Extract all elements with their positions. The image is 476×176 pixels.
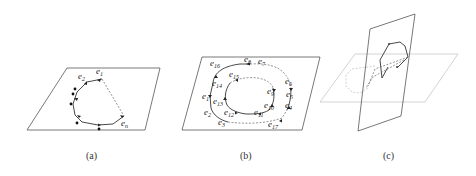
label-e13: e13 [213,96,223,107]
label-e10: e10 [264,100,274,111]
plane-a [27,68,160,130]
label-e4: e4 [285,100,292,111]
intersection-dash-c2 [366,60,404,88]
point [72,93,75,96]
label-e2: e2 [78,71,85,82]
label-e3: e3 [218,117,225,128]
label-e1: e1 [202,91,209,102]
arrow-e13 [223,97,227,100]
label-e12: e12 [224,107,234,118]
label-e5: e5 [286,89,293,100]
label-en: en [121,118,128,129]
point [74,88,77,91]
point [396,66,398,68]
panel-c: (c) [320,14,458,162]
panel-b: e16 e8 e7 e15 e14 e6 e9 e5 e1 e13 e10 e4… [182,54,320,162]
label-e6: e6 [285,76,292,87]
caption-c: (c) [383,150,394,162]
point [76,122,79,125]
open-gap-a [102,79,124,116]
label-e14: e14 [212,78,222,89]
point [98,128,101,131]
vertical-plane-c [358,14,415,131]
inner-loop-b-left [225,83,246,114]
arrow-e1 [97,79,101,83]
panel-a: e2 e1 en (a) [27,66,160,162]
arrow-e17 [279,119,282,123]
label-e7: e7 [258,56,266,67]
intersection-dash-c [368,57,408,86]
label-e2: e2 [204,107,211,118]
label-e8: e8 [244,54,251,65]
label-e11: e11 [254,107,264,118]
arrow-bottom [98,124,101,127]
horizontal-plane-c [320,54,458,102]
label-e15: e15 [229,69,239,80]
figure-canvas: e2 e1 en (a) e16 e8 e7 e15 e14 [0,0,476,176]
caption-b: (b) [240,150,252,162]
caption-a: (a) [86,150,97,162]
point [70,103,73,106]
label-e16: e16 [210,58,220,69]
point [388,43,390,45]
boundary-loop-a [73,79,124,125]
